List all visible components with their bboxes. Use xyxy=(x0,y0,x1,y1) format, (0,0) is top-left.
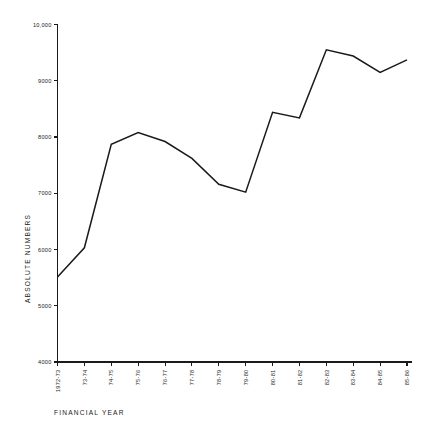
x-axis-tick-label: 78-79 xyxy=(216,370,222,386)
x-axis-tick-label: 1972-73 xyxy=(55,370,61,393)
x-axis-tick-label: 84-85 xyxy=(377,370,383,386)
y-axis-tick-label: 9000 xyxy=(38,78,51,84)
x-axis-tick-label: 80-81 xyxy=(270,370,276,386)
y-axis-tick-label: 6000 xyxy=(38,247,51,253)
line-chart-figure: 40005000600070008000900010,000 1972-7373… xyxy=(0,0,431,438)
x-axis-tick-label: 83-84 xyxy=(350,370,356,386)
y-axis-tick-label: 8000 xyxy=(38,134,51,140)
y-axis-tick-label: 7000 xyxy=(38,190,51,196)
y-axis-title: ABSOLUTE NUMBERS xyxy=(24,214,31,303)
x-axis-tick-label: 85-86 xyxy=(404,370,410,386)
y-axis-tick-group: 40005000600070008000900010,000 xyxy=(33,22,58,366)
y-axis-tick-label: 4000 xyxy=(38,359,51,365)
x-axis-tick-label: 76-77 xyxy=(162,370,168,386)
y-axis-tick-label: 10,000 xyxy=(33,22,52,28)
x-axis-tick-label: 77-78 xyxy=(189,370,195,386)
x-axis-tick-label: 74-75 xyxy=(108,370,114,386)
x-axis-tick-label: 75-76 xyxy=(135,370,141,386)
x-axis-title: FINANCIAL YEAR xyxy=(54,409,125,416)
data-series-line xyxy=(58,50,408,277)
y-axis-tick-label: 5000 xyxy=(38,303,51,309)
x-axis-tick-group: 1972-7373-7474-7575-7676-7777-7878-7979-… xyxy=(55,362,411,392)
chart-canvas: 40005000600070008000900010,000 1972-7373… xyxy=(0,0,431,438)
x-axis-tick-label: 82-83 xyxy=(324,370,330,386)
x-axis-tick-label: 79-80 xyxy=(243,370,249,386)
x-axis-tick-label: 81-82 xyxy=(297,370,303,386)
x-axis-tick-label: 73-74 xyxy=(82,370,88,386)
